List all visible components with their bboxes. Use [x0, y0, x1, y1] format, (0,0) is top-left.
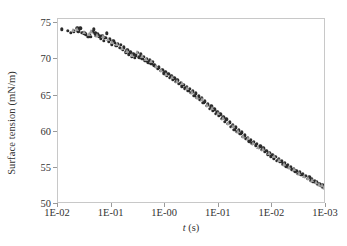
data-point-triangle — [144, 57, 148, 61]
data-point-triangle — [221, 116, 225, 120]
data-point-triangle — [231, 124, 235, 128]
y-tick-label: 70 — [25, 53, 51, 64]
data-point-triangle — [267, 151, 271, 155]
data-point-triangle — [241, 134, 245, 138]
data-point-triangle — [210, 106, 214, 110]
data-point-triangle — [115, 42, 119, 46]
data-point-triangle — [180, 81, 184, 85]
data-point-triangle — [195, 95, 199, 99]
data-point-triangle — [175, 79, 179, 83]
data-point-triangle — [292, 167, 296, 171]
data-point-triangle — [297, 171, 301, 175]
data-point-triangle — [164, 72, 168, 76]
x-tick-label: 1E-02 — [249, 207, 293, 218]
data-point-triangle — [154, 64, 158, 68]
x-tick-label: 1E-01 — [89, 207, 133, 218]
data-point-triangle — [82, 30, 86, 34]
x-tick-label: 1E-02 — [35, 207, 79, 218]
data-point-triangle — [205, 103, 209, 107]
data-point-triangle — [256, 145, 260, 149]
x-tick-label: 1E-00 — [142, 207, 186, 218]
data-point-triangle — [226, 121, 230, 125]
y-tick-label: 60 — [25, 125, 51, 136]
plot-area — [57, 18, 325, 203]
data-point-circle — [60, 27, 63, 30]
data-point-triangle — [135, 50, 139, 54]
data-point-triangle — [125, 49, 129, 53]
data-point-triangle — [282, 162, 286, 166]
data-point-circle — [105, 32, 108, 35]
data-point-triangle — [110, 40, 114, 44]
data-point-triangle — [149, 59, 153, 63]
data-point-triangle — [170, 75, 174, 79]
data-point-triangle — [159, 68, 163, 72]
x-axis-title-variable: t — [183, 222, 186, 233]
data-point-triangle — [185, 86, 189, 90]
data-point-triangle — [89, 29, 93, 33]
data-point-triangle — [323, 185, 325, 189]
data-point-triangle — [236, 129, 240, 133]
y-tick-label: 65 — [25, 89, 51, 100]
data-point-triangle — [246, 136, 250, 140]
data-point-triangle — [190, 90, 194, 94]
data-point-triangle — [277, 158, 281, 162]
figure-surface-tension-scatter: Surface tension (mN/m) t (s) 50556065707… — [0, 0, 347, 246]
data-point-triangle — [251, 141, 255, 145]
data-point-triangle — [106, 37, 110, 41]
data-point-triangle — [216, 111, 220, 115]
data-point-circle — [324, 186, 325, 189]
x-tick-label: 1E-03 — [303, 207, 347, 218]
y-axis-title: Surface tension (mN/m) — [0, 0, 22, 246]
y-tick-label: 75 — [25, 17, 51, 28]
data-point-triangle — [75, 27, 79, 31]
data-point-triangle — [101, 34, 105, 38]
data-point-triangle — [287, 165, 291, 169]
y-tick-label: 55 — [25, 161, 51, 172]
x-axis-title: t (s) — [57, 222, 325, 233]
x-tick-label: 1E-01 — [196, 207, 240, 218]
data-point-triangle — [130, 53, 134, 57]
data-point-triangle — [261, 147, 265, 151]
data-point-triangle — [272, 154, 276, 158]
data-point-triangle — [120, 46, 124, 50]
data-point-triangle — [200, 97, 204, 101]
data-point-triangle — [95, 33, 99, 37]
data-point-triangle — [140, 54, 144, 58]
